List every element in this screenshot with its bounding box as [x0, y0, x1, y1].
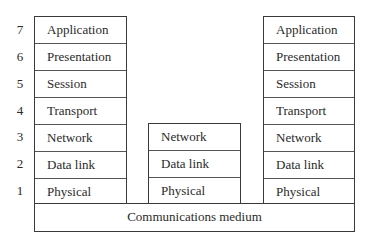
layer-number-3: 3 — [12, 123, 28, 150]
left-layer-session: Session — [35, 71, 126, 98]
layer-number-1: 1 — [12, 177, 28, 204]
right-layer-presentation: Presentation — [264, 44, 354, 71]
middle-layer-network: Network — [149, 124, 240, 151]
left-layer-presentation: Presentation — [35, 44, 126, 71]
left-layer-network: Network — [35, 125, 126, 152]
right-layer-data-link: Data link — [264, 152, 354, 179]
layer-number-7: 7 — [12, 16, 28, 43]
left-layer-data-link: Data link — [35, 152, 126, 179]
right-layer-physical: Physical — [264, 179, 354, 206]
left-layer-transport: Transport — [35, 98, 126, 125]
middle-router-stack: Network Data link Physical — [148, 123, 241, 204]
layer-number-5: 5 — [12, 70, 28, 97]
middle-layer-data-link: Data link — [149, 151, 240, 178]
layer-number-6: 6 — [12, 43, 28, 70]
layer-number-4: 4 — [12, 97, 28, 124]
right-host-stack: Application Presentation Session Transpo… — [263, 16, 355, 204]
right-layer-transport: Transport — [264, 98, 354, 125]
middle-layer-physical: Physical — [149, 178, 240, 205]
left-layer-physical: Physical — [35, 179, 126, 206]
left-host-stack: Application Presentation Session Transpo… — [34, 16, 127, 204]
communications-medium: Communications medium — [34, 203, 355, 232]
right-layer-network: Network — [264, 125, 354, 152]
layer-number-2: 2 — [12, 150, 28, 177]
right-layer-application: Application — [264, 17, 354, 44]
right-layer-session: Session — [264, 71, 354, 98]
left-layer-application: Application — [35, 17, 126, 44]
